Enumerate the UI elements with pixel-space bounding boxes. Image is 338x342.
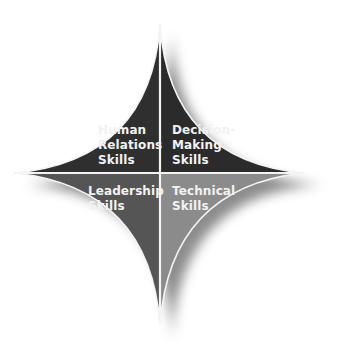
label-line: Relations xyxy=(98,138,162,153)
label-line: Skills xyxy=(172,153,235,168)
label-line: Human xyxy=(98,123,162,138)
label-line: Leadership xyxy=(88,184,164,199)
label-decision-making-skills: Decision- Making Skills xyxy=(172,123,235,168)
skills-diagram xyxy=(0,0,338,342)
label-line: Decision- xyxy=(172,123,235,138)
label-line: Technical xyxy=(172,184,235,199)
label-leadership-skills: Leadership Skills xyxy=(88,184,164,214)
label-line: Making xyxy=(172,138,235,153)
label-line: Skills xyxy=(98,153,162,168)
label-human-relations-skills: Human Relations Skills xyxy=(98,123,162,168)
label-technical-skills: Technical Skills xyxy=(172,184,235,214)
label-line: Skills xyxy=(172,199,235,214)
label-line: Skills xyxy=(88,199,164,214)
